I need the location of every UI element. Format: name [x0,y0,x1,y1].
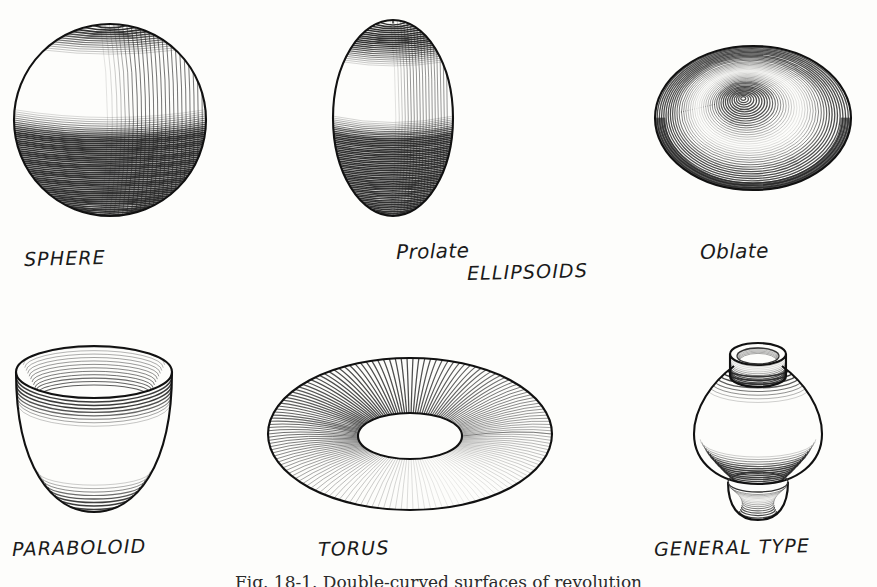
label-oblate: Oblate [700,238,769,264]
figure-page: SPHERE Prolate Oblate ELLIPSOIDS [0,0,877,587]
general-type-illustration [672,336,844,532]
sphere-illustration [8,16,218,228]
label-sphere: SPHERE [24,246,106,270]
figure-caption: Fig. 18-1. Double-curved surfaces of rev… [0,572,877,587]
label-prolate: Prolate [396,238,470,264]
prolate-ellipsoid-illustration [318,14,468,226]
label-ellipsoids: ELLIPSOIDS [467,259,588,284]
torus-illustration [262,352,558,520]
oblate-ellipsoid-illustration [650,28,856,208]
label-paraboloid: PARABOLOID [12,535,147,560]
label-torus: TORUS [318,536,390,560]
paraboloid-illustration [6,346,182,518]
label-general-type: GENERAL TYPE [654,534,811,560]
